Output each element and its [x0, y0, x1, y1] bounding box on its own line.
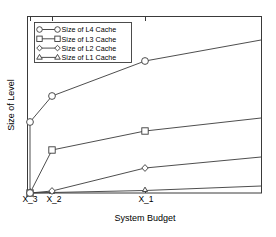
top-axis-ticks: [31, 17, 146, 22]
legend-label-l4: Size of L4 Cache: [62, 25, 117, 34]
y-axis-title: Size of Level: [6, 79, 16, 131]
x-axis-title: System Budget: [114, 213, 176, 223]
legend-label-l3: Size of L3 Cache: [62, 35, 117, 44]
legend-label-l2: Size of L2 Cache: [62, 44, 117, 53]
line-chart: X_3 X_2 X_1 System Budget Size of Level …: [0, 0, 276, 237]
xtick-label-x2: X_2: [46, 194, 61, 204]
legend-label-l1: Size of L1 Cache: [62, 53, 117, 62]
legend-marker-circle: [55, 27, 61, 33]
xtick-label-x1: X_1: [138, 194, 153, 204]
series-l3-marker: [142, 128, 148, 134]
series-l1-marker: [143, 187, 148, 191]
series-l4-marker: [142, 58, 149, 65]
xtick-label-x3: X_3: [22, 194, 37, 204]
series-l2-marker: [142, 165, 148, 172]
series-l4-marker: [27, 119, 34, 126]
legend-marker-circle: [37, 27, 43, 33]
legend-marker-square: [37, 36, 42, 41]
series-l3-cache: [27, 118, 261, 196]
series-l4-marker: [49, 93, 56, 100]
chart-legend: Size of L4 Cache Size of L3 Cache Size o…: [35, 23, 132, 63]
legend-marker-square: [55, 36, 60, 41]
series-l4-cache: [27, 40, 261, 196]
chart-figure: X_3 X_2 X_1 System Budget Size of Level …: [0, 0, 276, 237]
series-l3-marker: [49, 147, 55, 153]
